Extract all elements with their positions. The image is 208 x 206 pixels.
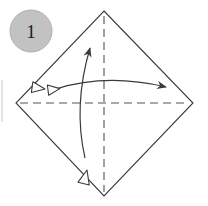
step-number-badge: 1 — [10, 10, 52, 52]
step-badge-label: 1 — [26, 21, 36, 42]
diagram-canvas: 1 — [0, 0, 208, 206]
origami-step-diagram: 1 — [0, 0, 208, 206]
